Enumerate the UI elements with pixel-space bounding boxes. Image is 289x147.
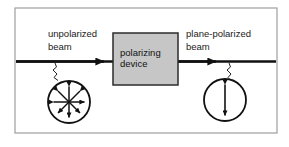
unpolarized-beam-label-line1: unpolarized bbox=[48, 28, 97, 39]
device-label-line1: polarizing bbox=[120, 47, 161, 58]
plane-polarized-beam-label-line2: beam bbox=[186, 41, 210, 52]
figure-container: polarizing device unpolarized beam plane… bbox=[0, 0, 289, 147]
unpolarized-circle-group bbox=[48, 81, 90, 123]
unpolarized-beam-label-line2: beam bbox=[48, 41, 72, 52]
plane-polarized-beam-label-line1: plane-polarized bbox=[186, 28, 251, 39]
polarization-diagram: polarizing device unpolarized beam plane… bbox=[0, 0, 289, 147]
plane-polarized-circle-group bbox=[204, 79, 246, 121]
device-label-line2: device bbox=[120, 58, 147, 69]
